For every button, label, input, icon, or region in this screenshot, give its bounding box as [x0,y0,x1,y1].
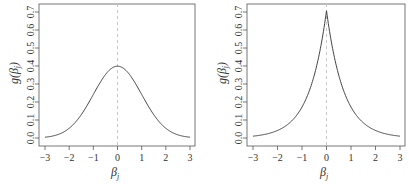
y-axis-title: g(βj) [215,62,230,84]
laplace-density-panel: −3−2−101230.00.10.20.30.40.50.60.7βjg(βj… [215,4,405,181]
x-tick-label: −1 [297,152,308,163]
x-tick-label: 2 [163,152,168,163]
x-tick-label: −3 [248,152,259,163]
y-tick-label: 0.0 [233,132,244,145]
x-tick-label: 0 [324,152,329,163]
y-tick-label: 0.4 [25,60,36,73]
y-axis-title: g(βj) [7,62,22,84]
y-tick-label: 0.1 [233,114,244,127]
x-tick-label: 1 [349,152,354,163]
x-tick-label: −1 [88,152,99,163]
x-axis-title: βj [110,165,120,181]
y-tick-label: 0.3 [233,78,244,91]
x-tick-label: 3 [398,152,403,163]
y-tick-label: 0.2 [25,96,36,109]
x-tick-label: 3 [188,152,193,163]
x-tick-label: 1 [139,152,144,163]
x-axis-title: βj [319,165,329,181]
normal-density-panel: −3−2−101230.00.10.20.30.40.50.60.7βjg(βj… [7,4,195,181]
y-tick-label: 0.5 [25,42,36,55]
y-tick-label: 0.3 [25,78,36,91]
y-tick-label: 0.0 [25,132,36,145]
y-tick-label: 0.5 [233,42,244,55]
y-tick-label: 0.6 [233,24,244,37]
density-plots: −3−2−101230.00.10.20.30.40.50.60.7βjg(βj… [0,0,409,184]
y-tick-label: 0.2 [233,96,244,109]
y-tick-label: 0.6 [25,24,36,37]
x-tick-label: −2 [272,152,283,163]
x-tick-label: 2 [373,152,378,163]
y-tick-label: 0.7 [233,6,244,19]
x-tick-label: −2 [64,152,75,163]
x-tick-label: −3 [40,152,51,163]
y-tick-label: 0.4 [233,60,244,73]
y-tick-label: 0.7 [25,6,36,19]
figure: −3−2−101230.00.10.20.30.40.50.60.7βjg(βj… [0,0,409,184]
x-tick-label: 0 [115,152,120,163]
y-tick-label: 0.1 [25,114,36,127]
